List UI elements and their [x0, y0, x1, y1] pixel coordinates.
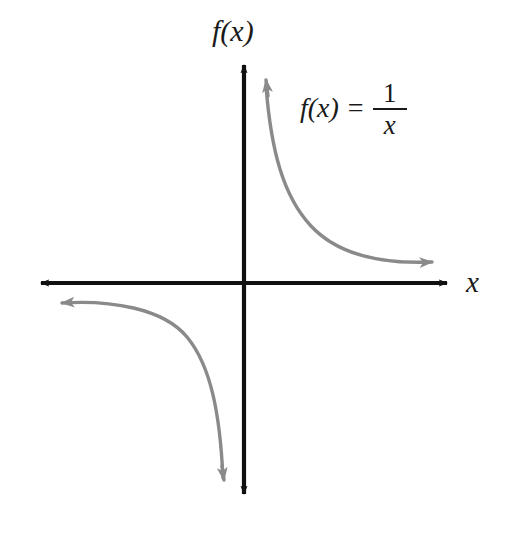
curve-q1-top-arrow	[266, 80, 268, 96]
equation-annotation: f(x) = 1 x	[300, 78, 407, 139]
curve-branch-quadrant-3	[62, 302, 224, 480]
curve-q1-helper	[268, 84, 290, 200]
curve-q3-bottom-arrow	[222, 466, 224, 480]
fraction-numerator: 1	[376, 79, 404, 108]
equation-equals-sign: =	[346, 94, 366, 122]
curve-q3-path-forward	[62, 302, 223, 478]
equation-fraction: 1 x	[373, 79, 407, 140]
y-axis-label: f(x)	[212, 16, 254, 46]
function-graph-figure: f(x) x f(x) = 1 x	[0, 0, 505, 536]
x-axis-label: x	[466, 268, 479, 297]
graph-canvas	[0, 0, 505, 536]
fraction-denominator: x	[377, 110, 403, 139]
equation-left-hand-side: f(x)	[300, 94, 339, 122]
